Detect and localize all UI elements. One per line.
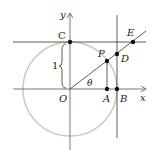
point-c: [68, 40, 72, 44]
point-d: [115, 52, 119, 56]
y-axis-label: y: [59, 9, 66, 20]
radius-brace-icon: [59, 44, 66, 88]
label-b: B: [119, 93, 127, 104]
point-e: [131, 40, 135, 44]
unit-circle-diagram: y x C E P D O A B θ 1: [0, 0, 154, 157]
label-a: A: [102, 93, 110, 104]
label-d: D: [120, 53, 129, 64]
label-radius: 1: [52, 60, 58, 71]
label-theta: θ: [87, 78, 93, 88]
point-p: [105, 59, 109, 63]
point-b: [115, 87, 119, 91]
label-p: P: [97, 48, 105, 59]
label-o: O: [59, 93, 67, 104]
point-a: [105, 87, 109, 91]
label-e: E: [126, 27, 135, 38]
label-c: C: [58, 30, 66, 41]
x-axis-label: x: [140, 92, 146, 103]
